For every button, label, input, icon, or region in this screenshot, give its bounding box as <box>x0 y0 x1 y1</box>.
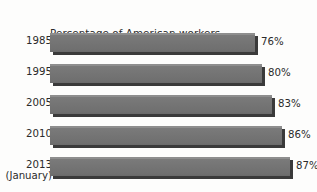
bar-body <box>50 33 255 52</box>
bar-row: 2005 83% <box>0 95 317 119</box>
value-label-1985: 76% <box>261 36 284 48</box>
value-label-1995: 80% <box>268 67 291 79</box>
bar-shadow-right <box>272 98 275 117</box>
plot-area: 1985 76% 1995 80% 2005 <box>0 33 317 188</box>
bar-shadow-right <box>262 67 265 86</box>
bar-1995 <box>50 64 262 86</box>
bar-shadow-bottom <box>53 52 258 55</box>
bar-2010 <box>50 126 282 148</box>
bar-row: 1985 76% <box>0 33 317 57</box>
bar-2013 <box>50 157 290 179</box>
value-label-2005: 83% <box>278 98 301 110</box>
category-label-2010: 2010 <box>0 128 52 140</box>
bar-shadow-bottom <box>53 83 265 86</box>
bar-shadow-bottom <box>53 114 275 117</box>
bar-body <box>50 126 282 145</box>
bar-shadow-right <box>290 160 293 179</box>
category-label-1995: 1995 <box>0 66 52 78</box>
category-label-2005: 2005 <box>0 97 52 109</box>
bar-chart-figure: Percentage of American workers employed … <box>0 0 317 192</box>
bar-body <box>50 95 272 114</box>
category-label-1985: 1985 <box>0 35 52 47</box>
bar-shadow-right <box>255 36 258 55</box>
bar-shadow-right <box>282 129 285 148</box>
value-label-2013: 87% <box>296 160 317 172</box>
bar-body <box>50 157 290 176</box>
bar-shadow-bottom <box>53 145 285 148</box>
bar-row: 2010 86% <box>0 126 317 150</box>
bar-row: 1995 80% <box>0 64 317 88</box>
bar-shadow-bottom <box>53 176 293 179</box>
bar-row: 2013 (January) 87% <box>0 157 317 181</box>
category-sublabel-2013: (January) <box>0 170 52 182</box>
value-label-2010: 86% <box>288 129 311 141</box>
bar-1985 <box>50 33 255 55</box>
bar-2005 <box>50 95 272 117</box>
bar-body <box>50 64 262 83</box>
